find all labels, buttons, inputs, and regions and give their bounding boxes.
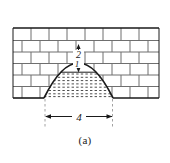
width-arrow-left: [45, 114, 51, 118]
width-arrow-right: [107, 114, 113, 118]
width-label: 4: [76, 111, 82, 123]
width-dimension: 4: [45, 99, 113, 127]
water-depth-label: 1: [75, 59, 80, 69]
figure-caption: (a): [0, 134, 170, 146]
